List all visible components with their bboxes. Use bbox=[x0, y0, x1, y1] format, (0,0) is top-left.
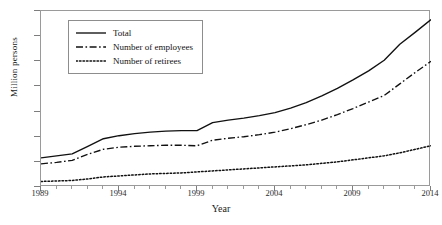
x-tick-mark-minor bbox=[212, 186, 213, 189]
legend-item: Number of retirees bbox=[76, 54, 193, 68]
legend-item: Total bbox=[76, 26, 193, 40]
legend-label: Number of retirees bbox=[113, 56, 181, 66]
x-axis-title: Year bbox=[0, 203, 442, 214]
line-chart: Million persons 050100150200250300350 19… bbox=[0, 0, 442, 225]
x-tick-mark-minor bbox=[165, 186, 166, 189]
x-tick-label: 1989 bbox=[20, 189, 60, 198]
x-tick-mark-minor bbox=[71, 186, 72, 189]
legend: TotalNumber of employeesNumber of retire… bbox=[68, 20, 203, 74]
x-tick-mark-minor bbox=[149, 186, 150, 189]
x-tick-mark-minor bbox=[134, 186, 135, 189]
x-tick-mark-minor bbox=[305, 186, 306, 189]
legend-line-swatch bbox=[76, 42, 106, 52]
x-tick-mark-minor bbox=[243, 186, 244, 189]
x-tick-mark-minor bbox=[56, 186, 57, 189]
x-tick-label: 1999 bbox=[176, 189, 216, 198]
x-tick-label: 2009 bbox=[332, 189, 372, 198]
legend-item: Number of employees bbox=[76, 40, 193, 54]
legend-label: Total bbox=[113, 28, 131, 38]
x-tick-label: 2004 bbox=[254, 189, 294, 198]
x-tick-mark-minor bbox=[321, 186, 322, 189]
legend-line-swatch bbox=[76, 56, 106, 66]
x-tick-mark-minor bbox=[399, 186, 400, 189]
x-tick-mark-minor bbox=[87, 186, 88, 189]
legend-label: Number of employees bbox=[113, 42, 193, 52]
y-axis-title: Million persons bbox=[9, 7, 19, 127]
legend-line-swatch bbox=[76, 28, 106, 38]
x-tick-label: 1994 bbox=[98, 189, 138, 198]
x-tick-mark-minor bbox=[383, 186, 384, 189]
series-line bbox=[41, 61, 431, 164]
x-tick-mark-minor bbox=[227, 186, 228, 189]
x-tick-mark-minor bbox=[368, 186, 369, 189]
x-tick-label: 2014 bbox=[410, 189, 442, 198]
x-tick-mark-minor bbox=[290, 186, 291, 189]
